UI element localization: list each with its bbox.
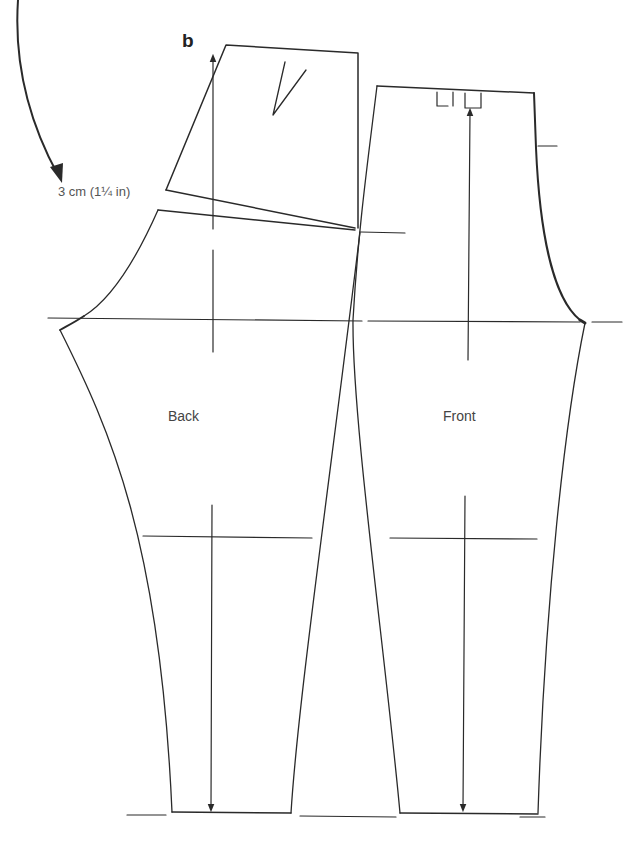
measurement-annotation: 3 cm (1¼ in) (56, 184, 132, 199)
pattern-diagram: b 3 cm (1¼ in) Back Front (0, 0, 627, 845)
front-grain-arrow-upper-icon (468, 112, 470, 360)
crotch-line (48, 318, 622, 322)
knee-lines (143, 536, 537, 539)
figure-label: b (182, 30, 194, 52)
hem-line (127, 815, 545, 817)
curved-arrow-icon (17, 0, 63, 183)
front-grain-arrow-lower-icon (463, 496, 465, 808)
back-yoke-outline (166, 45, 358, 228)
back-piece-label: Back (168, 408, 199, 424)
back-piece-outline (60, 210, 360, 813)
front-piece-label: Front (443, 408, 476, 424)
back-grain-arrow-lower-icon (211, 505, 212, 808)
